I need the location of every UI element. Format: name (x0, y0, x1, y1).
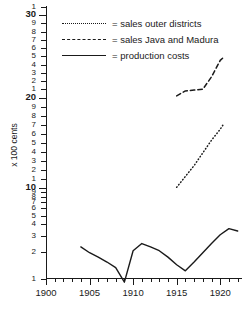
y-tick (41, 134, 46, 135)
x-tick (55, 278, 56, 282)
y-tick (39, 15, 46, 16)
y-tick (41, 192, 46, 193)
y-tick (41, 216, 46, 217)
x-tick-label: 1900 (35, 288, 56, 298)
chart-figure: x 100 cents 1234567891012345678920123456… (0, 0, 247, 310)
y-tick (41, 161, 46, 162)
y-tick (41, 143, 46, 144)
y-tick (41, 65, 46, 66)
x-tick-label: 1915 (166, 288, 187, 298)
y-tick (41, 116, 46, 117)
y-axis-title: x 100 cents (9, 105, 19, 185)
y-tick (41, 208, 46, 209)
x-tick-label: 1905 (79, 288, 100, 298)
x-tick (168, 278, 169, 282)
x-tick (194, 278, 195, 282)
y-tick (41, 73, 46, 74)
x-tick (203, 278, 204, 282)
y-tick (39, 98, 46, 99)
x-tick (185, 278, 186, 282)
x-tick (220, 278, 221, 285)
legend-line-dashed-icon (62, 39, 106, 40)
y-tick (41, 202, 46, 203)
y-tick (41, 23, 46, 24)
x-tick (107, 278, 108, 282)
x-tick (142, 278, 143, 282)
y-axis-line (46, 6, 47, 278)
y-tick (41, 81, 46, 82)
x-tick (63, 278, 64, 282)
y-tick (41, 224, 46, 225)
y-tick (41, 170, 46, 171)
x-tick-label: 1910 (123, 288, 144, 298)
x-tick (133, 278, 134, 285)
y-tick (41, 197, 46, 198)
series-line-sales-outer-districts (177, 124, 224, 187)
legend-label: = sales Java and Madura (112, 32, 218, 48)
y-tick (41, 7, 46, 8)
y-tick (41, 125, 46, 126)
x-tick (229, 278, 230, 282)
legend-line-dotted-icon (62, 23, 106, 24)
x-tick (72, 278, 73, 282)
legend-line-solid-icon (62, 55, 106, 56)
y-tick (41, 179, 46, 180)
x-tick (151, 278, 152, 282)
y-tick (41, 236, 46, 237)
x-tick (98, 278, 99, 282)
y-tick (41, 252, 46, 253)
series-line-production-costs (81, 229, 238, 282)
y-tick (41, 89, 46, 90)
y-tick (41, 152, 46, 153)
x-tick (116, 278, 117, 282)
y-tick (41, 48, 46, 49)
legend-label: = production costs (112, 48, 189, 64)
x-tick (124, 278, 125, 282)
y-tick (39, 188, 46, 189)
x-tick (238, 278, 239, 282)
y-tick (41, 107, 46, 108)
x-tick (46, 278, 47, 285)
legend-label: = sales outer districts (112, 16, 202, 32)
y-tick (41, 56, 46, 57)
x-tick (212, 278, 213, 282)
x-tick (90, 278, 91, 285)
x-tick-label: 1920 (210, 288, 231, 298)
y-tick (41, 40, 46, 41)
x-tick (159, 278, 160, 282)
x-tick (177, 278, 178, 285)
y-tick (41, 32, 46, 33)
x-tick (81, 278, 82, 282)
